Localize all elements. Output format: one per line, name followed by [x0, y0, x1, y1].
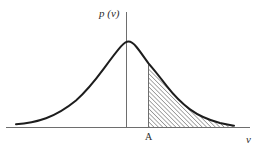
- density-plot-svg: p (v) v A: [0, 0, 258, 148]
- x-axis-label: v: [246, 133, 251, 145]
- density-curve: [16, 42, 234, 126]
- y-axis-label: p (v): [98, 7, 120, 20]
- shaded-tail-region: [146, 58, 238, 130]
- threshold-label-a: A: [145, 131, 153, 142]
- figure-container: p (v) v A: [0, 0, 258, 148]
